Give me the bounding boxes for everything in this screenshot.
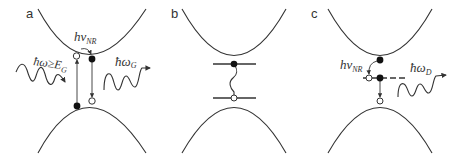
panel-b-label: b <box>171 6 178 21</box>
label-emission-d: ħωD <box>410 60 432 77</box>
emitted-photon-wave-icon <box>398 75 446 97</box>
electron-icon <box>89 56 96 63</box>
hole-state-icon <box>73 53 79 59</box>
label-hv-nr: hνNR <box>340 57 363 74</box>
defect-electron-icon <box>377 75 384 82</box>
panel-a: a hνNR ħω≥EG ħωG <box>16 6 150 153</box>
relaxation-arrow-icon <box>369 61 377 74</box>
panel-a-label: a <box>26 6 34 21</box>
hole-icon <box>231 95 237 101</box>
band-diagram-figure: a hνNR ħω≥EG ħωG b c <box>0 0 459 162</box>
valence-band <box>328 108 432 154</box>
valence-band <box>38 108 146 154</box>
panel-c-label: c <box>311 6 318 21</box>
conduction-band <box>38 9 146 55</box>
hole-icon <box>377 98 383 104</box>
hole-icon <box>89 98 95 104</box>
valence-band <box>182 108 286 154</box>
recombination-wave-icon <box>230 64 237 96</box>
electron-icon <box>231 61 238 68</box>
conduction-band <box>182 9 286 56</box>
defect-hole-icon <box>366 75 372 81</box>
electron-icon <box>74 103 81 110</box>
emitted-photon-wave-icon <box>104 68 150 90</box>
label-emission-g: ħωG <box>115 54 137 70</box>
panel-b: b <box>171 6 286 153</box>
electron-icon <box>377 57 384 64</box>
conduction-band <box>328 9 432 56</box>
label-hv-nr: hνNR <box>74 29 97 46</box>
panel-c: c hνNR ħωD <box>311 6 446 153</box>
